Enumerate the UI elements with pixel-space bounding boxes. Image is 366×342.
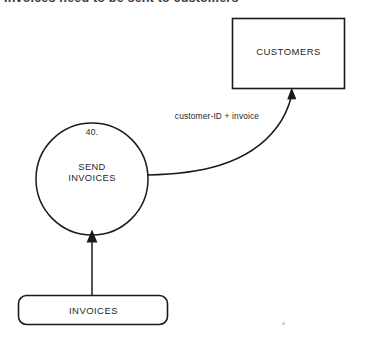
process-name-line1: SEND bbox=[36, 162, 148, 173]
flow-label-customer-id-invoice: customer-ID + invoice bbox=[162, 112, 272, 122]
process-name-line2: INVOICES bbox=[36, 173, 148, 184]
process-number-label: 40. bbox=[36, 127, 148, 137]
diagram-canvas: Invoices need to be sent to customers CU… bbox=[0, 0, 366, 342]
scan-artifact-speck bbox=[282, 322, 285, 325]
data-store-invoices-label: INVOICES bbox=[19, 305, 168, 316]
flow-arrowhead-to-customers bbox=[287, 88, 296, 100]
flow-arrow-customer-id-invoice[interactable] bbox=[148, 96, 292, 175]
external-entity-customers-label: CUSTOMERS bbox=[232, 46, 345, 57]
